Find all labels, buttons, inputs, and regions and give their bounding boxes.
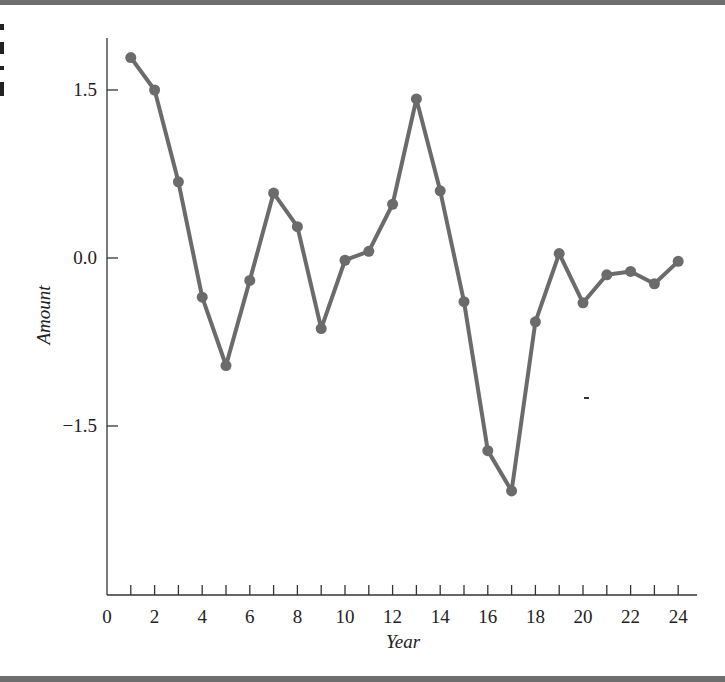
data-point-marker — [649, 278, 660, 289]
data-point-marker — [435, 185, 446, 196]
data-point-marker — [221, 360, 232, 371]
y-axis-title: Amount — [33, 285, 54, 347]
data-series — [125, 52, 683, 496]
x-tick-label: 8 — [293, 606, 303, 627]
data-point-marker — [340, 255, 351, 266]
y-tick-label: 0.0 — [73, 247, 97, 268]
data-point-marker — [482, 445, 493, 456]
x-tick-label: 10 — [336, 606, 355, 627]
y-tick-label: 1.5 — [73, 79, 97, 100]
data-point-marker — [316, 323, 327, 334]
tick-labels: 1.50.0−1.5024681012141618202224 — [63, 79, 689, 627]
series-line — [131, 58, 678, 491]
data-point-marker — [244, 275, 255, 286]
data-point-marker — [173, 176, 184, 187]
data-point-marker — [625, 266, 636, 277]
bottom-border-rule — [0, 676, 725, 682]
x-tick-label: 6 — [245, 606, 255, 627]
x-tick-label: 14 — [431, 606, 451, 627]
line-chart: 1.50.0−1.5024681012141618202224 Year Amo… — [0, 0, 725, 682]
data-point-marker — [197, 292, 208, 303]
data-point-marker — [506, 485, 517, 496]
data-point-marker — [363, 246, 374, 257]
x-tick-label: 12 — [383, 606, 402, 627]
data-point-marker — [149, 85, 160, 96]
data-point-marker — [530, 316, 541, 327]
x-axis-title: Year — [386, 631, 421, 652]
data-point-marker — [459, 296, 470, 307]
data-point-marker — [268, 188, 279, 199]
x-tick-label: 16 — [478, 606, 497, 627]
data-point-marker — [292, 221, 303, 232]
data-point-marker — [578, 297, 589, 308]
x-tick-label: 24 — [669, 606, 689, 627]
data-point-marker — [125, 52, 136, 63]
x-tick-label: 4 — [197, 606, 207, 627]
x-tick-label: 0 — [102, 606, 112, 627]
data-point-marker — [673, 256, 684, 267]
data-point-marker — [554, 248, 565, 259]
x-tick-label: 2 — [150, 606, 160, 627]
x-tick-label: 22 — [621, 606, 640, 627]
chart-axes — [107, 38, 697, 595]
data-point-marker — [411, 93, 422, 104]
x-tick-label: 18 — [526, 606, 545, 627]
y-tick-label: −1.5 — [63, 415, 97, 436]
stray-mark — [584, 397, 589, 399]
x-tick-label: 20 — [574, 606, 593, 627]
data-point-marker — [601, 269, 612, 280]
data-point-marker — [387, 199, 398, 210]
